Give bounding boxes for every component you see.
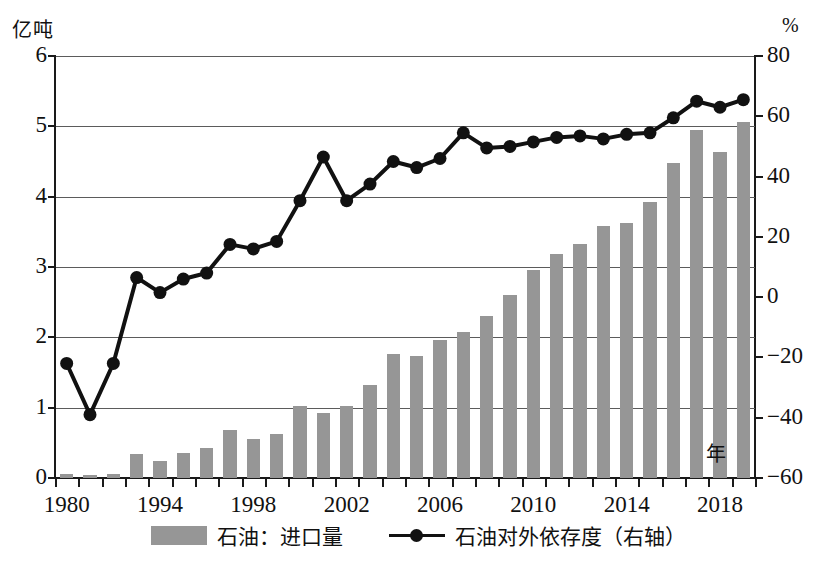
data-point-marker: [410, 161, 423, 174]
x-axis-tick: [288, 478, 290, 487]
right-axis-tick-label: 80: [767, 42, 836, 68]
x-axis-tick: [55, 478, 57, 487]
x-axis-tick: [592, 478, 594, 487]
x-axis-tick-label: 2002: [324, 492, 370, 518]
chart-legend: 石油：进口量 石油对外依存度（右轴）: [0, 520, 836, 550]
x-axis-tick: [102, 478, 104, 487]
right-axis-tick: [754, 296, 763, 298]
data-point-marker: [294, 194, 307, 207]
x-axis-tick-label: 2006: [417, 492, 463, 518]
dependency-line: [67, 100, 744, 415]
x-axis-tick: [382, 478, 384, 487]
x-axis-tick-label: 2014: [604, 492, 650, 518]
data-point-marker: [107, 357, 120, 370]
x-axis-tick: [568, 478, 570, 487]
legend-bar-swatch-icon: [151, 526, 207, 545]
data-point-marker: [317, 150, 330, 163]
data-point-marker: [550, 131, 563, 144]
right-axis-tick: [754, 176, 763, 178]
right-axis-tick: [754, 356, 763, 358]
x-axis-tick: [545, 478, 547, 487]
right-axis-tick: [754, 417, 763, 419]
line-series: [55, 56, 755, 478]
data-point-marker: [387, 155, 400, 168]
x-axis-tick: [195, 478, 197, 487]
right-axis-tick: [754, 115, 763, 117]
data-point-marker: [620, 128, 633, 141]
dependency-markers: [60, 93, 750, 421]
right-axis-tick-label: −60: [767, 464, 836, 490]
x-axis-tick: [312, 478, 314, 487]
left-axis-tick-label: 2: [0, 324, 47, 350]
data-point-marker: [644, 126, 657, 139]
x-axis-tick-label: 2010: [510, 492, 556, 518]
data-point-marker: [270, 235, 283, 248]
data-point-marker: [154, 286, 167, 299]
x-axis-tick-label: 1998: [230, 492, 276, 518]
data-point-marker: [340, 194, 353, 207]
x-axis-tick-label: 1994: [137, 492, 183, 518]
right-axis-tick: [754, 236, 763, 238]
left-axis-tick-label: 1: [0, 394, 47, 420]
left-axis-tick-label: 6: [0, 42, 47, 68]
x-axis-tick: [732, 478, 734, 487]
legend-item-imports: 石油：进口量: [151, 520, 343, 550]
x-axis-tick: [662, 478, 664, 487]
data-point-marker: [434, 152, 447, 165]
data-point-marker: [480, 141, 493, 154]
x-axis-tick: [638, 478, 640, 487]
data-point-marker: [597, 132, 610, 145]
x-axis-tick-label: 1980: [44, 492, 90, 518]
data-point-marker: [457, 126, 470, 139]
right-axis-tick-label: −20: [767, 344, 836, 370]
x-axis-tick: [125, 478, 127, 487]
legend-label-dependency: 石油对外依存度（右轴）: [455, 520, 686, 550]
x-axis-tick: [498, 478, 500, 487]
x-axis-tick: [148, 478, 150, 487]
data-point-marker: [200, 267, 213, 280]
x-axis-tick: [405, 478, 407, 487]
oil-import-dependency-chart: 亿吨 % 0123456 −60−40−20020406080 19801994…: [0, 0, 836, 566]
x-axis-tick: [265, 478, 267, 487]
x-axis-tick: [242, 478, 244, 487]
data-point-marker: [574, 129, 587, 142]
legend-line-marker-icon: [389, 528, 445, 542]
x-axis-tick: [522, 478, 524, 487]
x-axis-tick: [335, 478, 337, 487]
left-axis-tick-label: 5: [0, 113, 47, 139]
right-axis-tick-label: 0: [767, 284, 836, 310]
left-axis-tick-label: 4: [0, 183, 47, 209]
right-axis-tick-label: 60: [767, 103, 836, 129]
right-axis-tick-label: 40: [767, 163, 836, 189]
x-axis-tick: [755, 478, 757, 487]
x-axis-tick: [475, 478, 477, 487]
data-point-marker: [364, 178, 377, 191]
data-point-marker: [247, 242, 260, 255]
x-axis-tick: [358, 478, 360, 487]
x-axis-tick: [685, 478, 687, 487]
x-axis-tick: [218, 478, 220, 487]
data-point-marker: [667, 111, 680, 124]
data-point-marker: [177, 273, 190, 286]
left-axis-unit-label: 亿吨: [12, 14, 53, 43]
right-axis-tick: [754, 55, 763, 57]
data-point-marker: [504, 140, 517, 153]
right-axis-tick-label: 20: [767, 223, 836, 249]
x-axis-tick: [78, 478, 80, 487]
right-axis-unit-label: %: [782, 14, 799, 37]
left-axis-tick-label: 3: [0, 253, 47, 279]
legend-label-imports: 石油：进口量: [217, 520, 343, 550]
x-axis-tick-label: 2018: [697, 492, 743, 518]
data-point-marker: [130, 271, 143, 284]
data-point-marker: [527, 135, 540, 148]
left-axis-tick-label: 0: [0, 464, 47, 490]
data-point-marker: [690, 95, 703, 108]
data-point-marker: [714, 101, 727, 114]
data-point-marker: [60, 357, 73, 370]
legend-item-dependency: 石油对外依存度（右轴）: [389, 520, 686, 550]
data-point-marker: [84, 408, 97, 421]
plot-area: 0123456 −60−40−20020406080 1980199419982…: [55, 56, 755, 478]
x-axis-tick: [452, 478, 454, 487]
x-axis-tick: [428, 478, 430, 487]
x-axis-tick: [615, 478, 617, 487]
